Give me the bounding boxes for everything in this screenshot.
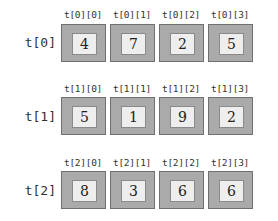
cell-value: 9 bbox=[170, 106, 195, 128]
cell-index-label: t[1][1] bbox=[108, 83, 156, 94]
array-row-0: t[0][0] t[0][1] t[0][2] t[0][3] t[0] 4 7… bbox=[0, 0, 278, 70]
cell-index-label: t[2][1] bbox=[108, 157, 156, 168]
cell-index-label: t[0][0] bbox=[59, 9, 107, 20]
cell-value: 5 bbox=[219, 33, 244, 55]
cell-index-label: t[0][3] bbox=[206, 9, 254, 20]
cell-value: 1 bbox=[121, 106, 146, 128]
row-label: t[1] bbox=[22, 109, 56, 124]
array-row-2: t[2][0] t[2][1] t[2][2] t[2][3] t[2] 8 3… bbox=[0, 148, 278, 218]
row-label: t[2] bbox=[22, 183, 56, 198]
array-cell: 8 bbox=[61, 171, 106, 209]
cell-value: 3 bbox=[121, 180, 146, 202]
array-cell: 2 bbox=[208, 97, 253, 135]
cell-index-label: t[0][1] bbox=[108, 9, 156, 20]
cell-value: 7 bbox=[121, 33, 146, 55]
cell-value: 2 bbox=[170, 33, 195, 55]
cell-index-label: t[0][2] bbox=[157, 9, 205, 20]
array-cell: 9 bbox=[159, 97, 204, 135]
cell-index-label: t[1][0] bbox=[59, 83, 107, 94]
array-cell: 2 bbox=[159, 24, 204, 62]
array-cell: 5 bbox=[61, 97, 106, 135]
cell-value: 8 bbox=[72, 180, 97, 202]
array-cell: 1 bbox=[110, 97, 155, 135]
array-cell: 5 bbox=[208, 24, 253, 62]
row-label: t[0] bbox=[22, 35, 56, 50]
cell-value: 6 bbox=[170, 180, 195, 202]
cell-index-label: t[1][2] bbox=[157, 83, 205, 94]
cell-index-label: t[2][3] bbox=[206, 157, 254, 168]
array-cell: 3 bbox=[110, 171, 155, 209]
array-cell: 6 bbox=[208, 171, 253, 209]
array-row-1: t[1][0] t[1][1] t[1][2] t[1][3] t[1] 5 1… bbox=[0, 74, 278, 144]
array-cell: 6 bbox=[159, 171, 204, 209]
cell-index-label: t[1][3] bbox=[206, 83, 254, 94]
cell-index-label: t[2][0] bbox=[59, 157, 107, 168]
cell-index-label: t[2][2] bbox=[157, 157, 205, 168]
array-cell: 7 bbox=[110, 24, 155, 62]
cell-value: 6 bbox=[219, 180, 244, 202]
cell-value: 5 bbox=[72, 106, 97, 128]
cell-value: 2 bbox=[219, 106, 244, 128]
cell-value: 4 bbox=[72, 33, 97, 55]
array-cell: 4 bbox=[61, 24, 106, 62]
